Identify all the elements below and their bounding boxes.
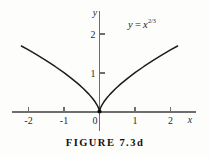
x-tick-label-neg1: -1 [60,115,68,126]
x-axis-label: x [187,114,193,125]
x-tick-label-pos2: 2 [168,115,173,126]
equation-operator: = [135,19,141,30]
cusp-point [97,109,101,113]
x-tick-label-zero: 0 [93,115,98,126]
x-tick-label-neg2: -2 [24,115,32,126]
plot-area: -2 -1 0 1 2 1 2 x y [0,0,210,157]
y-axis-label: y [92,7,98,18]
equation-lhs: y [128,19,133,30]
equation-label: y=x2/3 [128,17,156,30]
equation-exponent: 2/3 [148,17,156,24]
y-tick-label-2: 2 [91,29,96,40]
x-tick-label-pos1: 1 [133,115,138,126]
figure-container: -2 -1 0 1 2 1 2 x y y=x2/3 FIGURE 7.3d [0,0,210,157]
figure-caption: FIGURE 7.3d [0,137,210,148]
y-tick-label-1: 1 [91,68,96,79]
